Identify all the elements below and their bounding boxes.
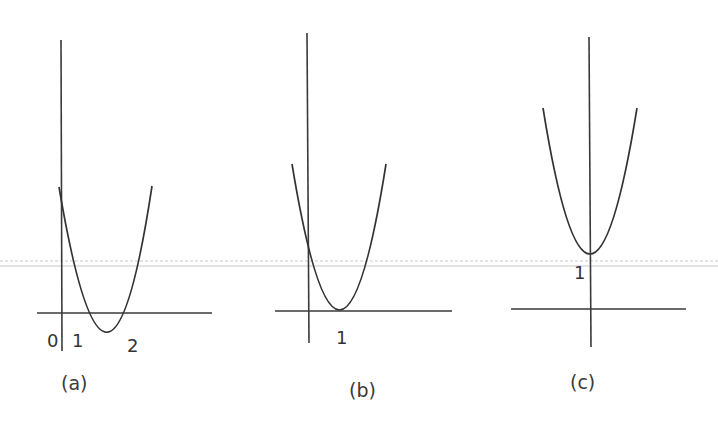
panel-c-y-axis [589,37,591,347]
panel-b-graph [275,33,452,343]
panel-a-parabola [59,186,152,332]
panel-b-parabola [292,164,386,310]
panel-a-graph [37,40,212,351]
panel-c-graph [511,37,686,347]
panel-b-caption: (b) [349,381,376,400]
panel-a-tick-2: 2 [127,337,138,355]
panel-c-caption: (c) [570,373,595,392]
panel-c-tick-1: 1 [574,264,585,282]
panel-a-tick-0: 0 [47,332,58,350]
figure-canvas [0,0,718,435]
panel-b-y-axis [307,33,309,343]
panel-b-tick-1: 1 [336,329,347,347]
panel-a-tick-1: 1 [72,332,83,350]
panel-a-caption: (a) [61,374,87,393]
